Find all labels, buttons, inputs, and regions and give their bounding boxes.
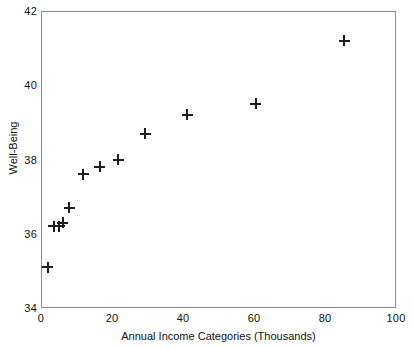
scatter-chart: 3436384042 020406080100 Well-Being Annua… xyxy=(0,0,414,347)
y-axis-title: Well-Being xyxy=(7,108,19,188)
x-axis-title: Annual Income Categories (Thousands) xyxy=(41,330,396,342)
x-tick-label: 20 xyxy=(92,313,132,324)
x-tick-label: 80 xyxy=(305,313,345,324)
y-tick-label: 36 xyxy=(5,229,37,240)
x-tick-label: 60 xyxy=(234,313,274,324)
y-tick-label: 40 xyxy=(5,80,37,91)
x-tick-label: 100 xyxy=(376,313,414,324)
x-tick-label: 40 xyxy=(163,313,203,324)
x-tick-label: 0 xyxy=(21,313,61,324)
x-axis-tick-labels: 020406080100 xyxy=(0,313,414,329)
plot-area xyxy=(41,11,396,308)
y-tick-label: 42 xyxy=(5,6,37,17)
